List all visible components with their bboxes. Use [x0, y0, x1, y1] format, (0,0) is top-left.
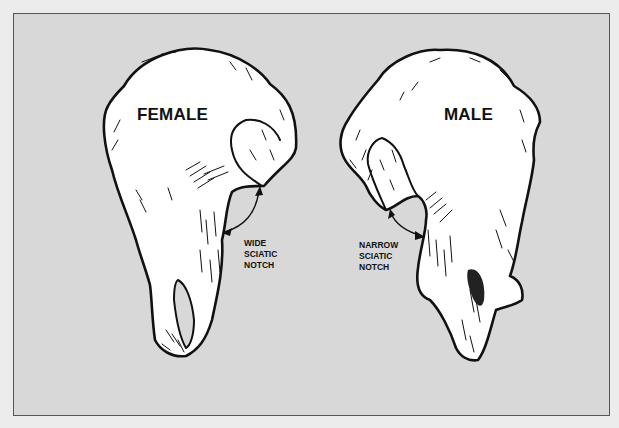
- annotation-line: NOTCH: [359, 262, 398, 273]
- annotation-line: SCIATIC: [244, 249, 277, 260]
- male-hip-bone: [341, 50, 540, 361]
- annotation-line: WIDE: [244, 238, 277, 249]
- female-label: FEMALE: [137, 106, 208, 123]
- wide-sciatic-notch-label: WIDE SCIATIC NOTCH: [244, 238, 277, 271]
- annotation-line: NOTCH: [244, 260, 277, 271]
- pelvis-illustration: [0, 0, 619, 428]
- narrow-notch-arrow: [388, 209, 425, 240]
- male-label: MALE: [444, 106, 493, 123]
- female-hip-bone: [104, 49, 296, 357]
- annotation-line: NARROW: [359, 240, 398, 251]
- narrow-sciatic-notch-label: NARROW SCIATIC NOTCH: [359, 240, 398, 273]
- annotation-line: SCIATIC: [359, 251, 398, 262]
